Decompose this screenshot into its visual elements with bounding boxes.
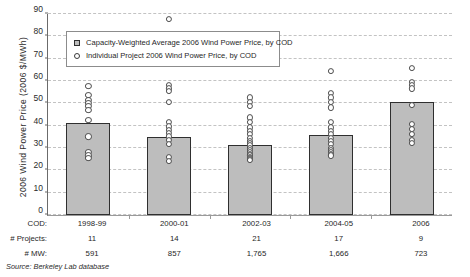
cell-projects: 14 [133,234,215,243]
y-tick-label: 50 [34,93,48,103]
y-tick-label: 90 [34,4,48,14]
data-point [85,107,91,113]
legend-item-individual: Individual Project 2006 Wind Power Price… [72,49,273,62]
circle-marker-icon [74,53,80,59]
y-tick-label: 10 [34,183,48,193]
cell-projects: 21 [215,234,297,243]
cell-mw: 857 [133,249,215,258]
legend-item-average: Capacity-Weighted Average 2006 Wind Powe… [72,36,273,49]
cell-cod: 2000-01 [133,219,215,228]
y-tick-label: 0 [38,205,48,215]
bar-swatch-icon [74,40,80,46]
data-point [247,103,253,109]
row-cells-mw: 5918571,7651,666723 [51,249,462,258]
legend-label-individual: Individual Project 2006 Wind Power Price… [86,51,257,60]
y-tick-label: 30 [34,138,48,148]
table-row-cod: COD: 1998-992000-012002-032004-052006 [0,216,462,231]
data-point [328,104,334,110]
y-tick-label: 80 [34,26,48,36]
data-point [409,85,415,91]
cell-cod: 2004-05 [298,219,380,228]
data-point [166,88,172,94]
y-tick-label: 60 [34,71,48,81]
cell-mw: 723 [380,249,462,258]
chart-legend: Capacity-Weighted Average 2006 Wind Powe… [66,31,280,67]
bar-2000-01 [147,137,191,215]
data-point [166,16,172,22]
table-row-projects: # Projects: 111421179 [0,231,462,246]
data-point [409,65,415,71]
cell-cod: 1998-99 [51,219,133,228]
row-header-cod: COD: [0,219,51,228]
wind-power-price-chart: 2006 Wind Power Price (2006 $/MWh) 01020… [0,0,470,277]
gridline [48,13,452,14]
gridline [48,80,452,81]
source-note: Source: Berkeley Lab database [6,262,109,271]
cell-projects: 17 [298,234,380,243]
cell-projects: 9 [380,234,462,243]
cell-cod: 2002-03 [215,219,297,228]
y-tick-label: 70 [34,49,48,59]
y-tick-label: 40 [34,116,48,126]
data-point [85,117,91,123]
cell-projects: 11 [51,234,133,243]
data-point [166,99,172,105]
y-tick-label: 20 [34,160,48,170]
legend-label-average: Capacity-Weighted Average 2006 Wind Powe… [86,38,293,47]
row-header-mw: # MW: [0,249,51,258]
data-point [85,83,91,89]
cell-mw: 1,765 [215,249,297,258]
table-row-mw: # MW: 5918571,7651,666723 [0,246,462,261]
cell-mw: 1,666 [298,249,380,258]
cell-cod: 2006 [380,219,462,228]
row-cells-cod: 1998-992000-012002-032004-052006 [51,219,462,228]
row-cells-projects: 111421179 [51,234,462,243]
data-point [328,68,334,74]
y-axis-title: 2006 Wind Power Price (2006 $/MWh) [18,2,28,232]
row-header-projects: # Projects: [0,234,51,243]
cell-mw: 591 [51,249,133,258]
bar-2006 [390,102,434,215]
category-table: COD: 1998-992000-012002-032004-052006 # … [0,216,462,261]
